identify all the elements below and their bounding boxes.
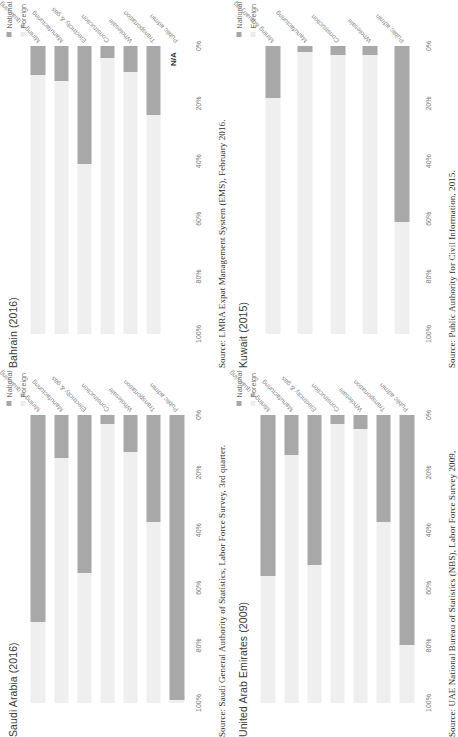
axis-tick-label: 20% <box>194 97 201 111</box>
bar-segment-foreign <box>54 458 68 703</box>
axis-tick-label: 40% <box>424 154 431 168</box>
bar-row <box>330 415 344 703</box>
bar-segment-foreign <box>362 55 377 334</box>
bar-row <box>146 415 160 703</box>
chart-uae: United Arab Emirates (2009)NationalForei… <box>230 369 458 737</box>
source-note: Source: LMRA Expat Management System (EM… <box>216 119 226 368</box>
axis-tick-label: 0% <box>194 41 201 51</box>
plot-area: Mining & quarryingManufacturingConstruct… <box>256 46 418 334</box>
chart-panel-bahrain: Bahrain (2016)NationalForeignMining & qu… <box>0 0 229 368</box>
legend-swatch-national-icon <box>6 401 11 406</box>
bar-row <box>265 46 280 334</box>
chart-panel-uae: United Arab Emirates (2009)NationalForei… <box>230 369 458 737</box>
bar-segment-foreign <box>307 565 321 703</box>
bar-row <box>307 415 321 703</box>
chart-panel-kuwait: Kuwait (2015)NationalForeignMining & qua… <box>230 0 458 368</box>
source-note: Source: UAE National Bureau of Statistic… <box>446 451 456 737</box>
chart-kuwait: Kuwait (2015)NationalForeignMining & qua… <box>230 0 458 368</box>
bar-segment-national <box>376 415 390 522</box>
axis-tick-label: 60% <box>424 212 431 226</box>
bar-segment-national <box>330 46 345 55</box>
bar-segment-foreign <box>399 645 413 703</box>
bar-row <box>260 415 274 703</box>
bar-segment-national <box>260 415 274 576</box>
bar-segment-foreign <box>146 522 160 703</box>
bar-segment-national <box>362 46 377 55</box>
bar-segment-foreign <box>376 522 390 703</box>
axis-tick-label: 20% <box>424 466 431 480</box>
bar-segment-national <box>307 415 321 565</box>
axis-tick-label: 80% <box>424 269 431 283</box>
chart-title: Saudi Arabia (2016) <box>6 437 18 737</box>
axis-tick-label: 80% <box>194 269 201 283</box>
source-note: Source: Saudi General Authority of Stati… <box>216 445 226 737</box>
bar-segment-national <box>54 46 68 81</box>
axis-tick-label: 0% <box>424 41 431 51</box>
bar-row <box>54 415 68 703</box>
bar-segment-foreign <box>77 164 91 334</box>
bar-segment-foreign <box>297 52 312 334</box>
axis-tick-label: 0% <box>194 410 201 420</box>
bar-row <box>123 46 137 334</box>
axis-tick-label: 100% <box>194 325 201 343</box>
bar-row <box>30 46 44 334</box>
plot-area: Mining & quarryingManufacturingElectrici… <box>26 415 188 703</box>
axis-tick-label: 60% <box>194 581 201 595</box>
bar-segment-national <box>265 46 280 98</box>
bar-row <box>146 46 160 334</box>
bar-segment-foreign <box>100 424 114 703</box>
bar-segment-national <box>100 415 114 424</box>
bar-segment-national <box>123 46 137 72</box>
legend-swatch-foreign-icon <box>250 32 255 37</box>
bar-row <box>30 415 44 703</box>
bar-segment-national <box>169 415 183 700</box>
plot-area: Mining & quarryingManufacturingElectrici… <box>256 415 418 703</box>
bar-segment-foreign <box>77 573 91 703</box>
axis-tick-label: 80% <box>424 638 431 652</box>
bar-segment-foreign <box>330 424 344 703</box>
legend-swatch-national-icon <box>236 401 241 406</box>
bar-segment-national <box>54 415 68 458</box>
bar-segment-national <box>399 415 413 645</box>
na-annotation: N/A <box>168 52 177 66</box>
bar-segment-national <box>123 415 137 452</box>
axis-tick-label: 40% <box>194 523 201 537</box>
category-label: Wholesale <box>346 18 373 45</box>
chart-title: Kuwait (2015) <box>236 68 248 368</box>
chart-title: Bahrain (2016) <box>6 68 18 368</box>
bar-segment-national <box>146 415 160 522</box>
axis-tick-label: 60% <box>194 212 201 226</box>
category-label: Manufacturing <box>273 10 308 45</box>
bar-segment-foreign <box>330 55 345 334</box>
axis-tick-label: 20% <box>194 466 201 480</box>
bar-row <box>123 415 137 703</box>
axis-tick-label: 40% <box>424 523 431 537</box>
bar-segment-national <box>30 415 44 622</box>
plot-area: Mining & quarryingManufacturingElectrici… <box>26 46 188 334</box>
bar-segment-foreign <box>54 81 68 334</box>
bar-row <box>54 46 68 334</box>
bar-row <box>362 46 377 334</box>
bar-segment-national <box>394 46 409 222</box>
legend-swatch-national-icon <box>236 32 241 37</box>
bar-segment-national <box>353 415 367 429</box>
axis-tick-label: 0% <box>424 410 431 420</box>
bar-segment-foreign <box>123 72 137 334</box>
chart-saudi-arabia: Saudi Arabia (2016)NationalForeignMining… <box>0 369 229 737</box>
bar-row <box>100 415 114 703</box>
bar-row <box>100 46 114 334</box>
bar-row <box>330 46 345 334</box>
bar-segment-foreign <box>30 75 44 334</box>
bar-segment-national <box>330 415 344 424</box>
bar-row <box>169 415 183 703</box>
bar-segment-foreign <box>260 576 274 703</box>
bar-segment-foreign <box>100 58 114 334</box>
bar-segment-foreign <box>265 98 280 334</box>
bar-row <box>297 46 312 334</box>
bar-segment-national <box>284 415 298 455</box>
bar-segment-national <box>30 46 44 75</box>
axis-tick-label: 20% <box>424 97 431 111</box>
axis-tick-label: 100% <box>424 694 431 712</box>
source-note: Source: Public Authority for Civil Infor… <box>446 170 456 368</box>
chart-bahrain: Bahrain (2016)NationalForeignMining & qu… <box>0 0 229 368</box>
